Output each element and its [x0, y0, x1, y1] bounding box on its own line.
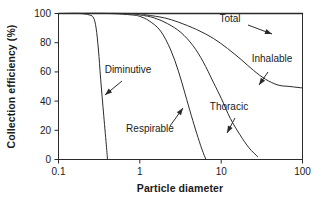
series-label-diminutive: Diminutive — [105, 64, 152, 75]
x-axis-title: Particle diameter — [137, 182, 223, 194]
x-tick-label-0.1: 0.1 — [52, 166, 66, 177]
y-tick-label-60: 60 — [40, 66, 52, 77]
series-label-inhalable: Inhalable — [252, 53, 293, 64]
series-label-total: Total — [219, 13, 240, 24]
y-tick-label-100: 100 — [34, 8, 51, 19]
y-tick-label-80: 80 — [40, 37, 52, 48]
y-axis-title: Collection efficiency (%) — [5, 25, 17, 149]
series-label-respirable: Respirable — [126, 123, 174, 134]
x-tick-label-10: 10 — [216, 166, 228, 177]
y-tick-label-20: 20 — [40, 125, 52, 136]
y-tick-label-0: 0 — [45, 154, 51, 165]
y-tick-label-40: 40 — [40, 96, 52, 107]
collection-efficiency-chart: 0 20 40 60 80 100 0.1 1 10 100 Particle … — [0, 0, 329, 201]
chart-figure: 0 20 40 60 80 100 0.1 1 10 100 Particle … — [0, 0, 329, 201]
x-tick-label-1: 1 — [137, 166, 143, 177]
series-label-thoracic: Thoracic — [210, 101, 248, 112]
x-tick-label-100: 100 — [294, 166, 311, 177]
